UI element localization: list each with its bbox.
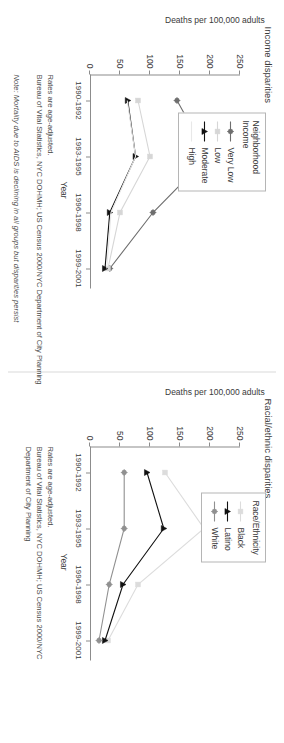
y-tick-label: 100: [145, 54, 155, 68]
legend-label: Moderate: [200, 147, 210, 183]
y-tick-label: 0: [85, 63, 95, 68]
data-point: [121, 469, 128, 476]
y-tick: [119, 442, 120, 446]
panel-title-left: Income disparities: [263, 26, 274, 103]
series-black: [106, 470, 207, 643]
legend-key-circle-icon: [208, 500, 221, 522]
legend-key-none-icon: [185, 120, 198, 142]
footnote-line: Bureau of Vital Statistics, NYC DOHMH; U…: [34, 446, 45, 659]
legend-label: Black: [236, 527, 246, 548]
data-point: [121, 525, 128, 532]
footnotes-right: Rates are age-adjusted.Bureau of Vital S…: [23, 446, 56, 659]
footnote-line: Rates are age-adjusted.: [45, 74, 56, 384]
x-tick-label: 1999-2001: [74, 249, 83, 287]
legend-key-triangle-icon: [198, 120, 211, 142]
data-point: [148, 154, 153, 159]
y-tick: [179, 70, 180, 74]
data-point: [174, 97, 181, 104]
legend-label: White: [210, 527, 220, 549]
figure-note: Note: Mortality due to AIDS is declining…: [11, 74, 22, 322]
footnote-line: Department of City Planning: [23, 446, 34, 659]
figure-canvas: Income disparities Deaths per 100,000 ad…: [0, 0, 284, 743]
y-tick: [89, 70, 90, 74]
y-tick-label: 250: [235, 426, 245, 440]
y-tick-label: 50: [115, 59, 125, 68]
legend-item: Moderate: [198, 120, 211, 183]
y-tick-label: 200: [205, 54, 215, 68]
footnotes-left: Rates are age-adjusted.Bureau of Vital S…: [34, 74, 56, 384]
y-tick-label: 0: [85, 435, 95, 440]
y-tick: [89, 442, 90, 446]
legend-item: White: [208, 500, 221, 554]
legend-label: Latino: [223, 527, 233, 550]
x-tick-label: 1999-2001: [74, 621, 83, 659]
x-tick-label: 1993-1995: [74, 509, 83, 547]
y-tick: [209, 70, 210, 74]
y-axis-label-right: Deaths per 100,000 adults: [165, 386, 265, 396]
data-point: [106, 581, 113, 588]
legend-item: Black: [234, 500, 247, 554]
series-latino: [102, 469, 166, 643]
x-tick-label: 1990-1992: [74, 453, 83, 491]
y-tick: [149, 70, 150, 74]
data-point: [96, 637, 103, 644]
y-tick: [179, 442, 180, 446]
data-point: [161, 525, 167, 531]
data-point: [136, 582, 141, 587]
y-tick-label: 100: [145, 426, 155, 440]
data-point: [144, 469, 150, 475]
x-tick-label: 1993-1995: [74, 137, 83, 175]
data-point: [163, 470, 168, 475]
legend-left: Neighborhood Income Very LowLowModerateH…: [178, 112, 266, 191]
legend-right: Race/Ethnicity BlackLatinoWhite: [201, 492, 266, 562]
y-axis-label-left: Deaths per 100,000 adults: [165, 14, 265, 24]
y-tick-label: 150: [175, 426, 185, 440]
y-tick: [209, 442, 210, 446]
data-point: [125, 97, 131, 103]
series-high: [107, 100, 136, 268]
panel-income-disparities: Income disparities Deaths per 100,000 ad…: [0, 0, 284, 372]
panel-racial-ethnic-disparities: Racial/ethnic disparities Deaths per 100…: [0, 372, 284, 743]
legend-title-right: Race/Ethnicity: [250, 500, 260, 554]
footnote-line: Rates are age-adjusted.: [45, 446, 56, 659]
x-tick-label: 1996-1998: [74, 193, 83, 231]
y-tick: [239, 70, 240, 74]
legend-label: Very Low: [226, 147, 236, 182]
y-tick: [149, 442, 150, 446]
y-tick-label: 250: [235, 54, 245, 68]
y-tick: [239, 442, 240, 446]
legend-item: Low: [211, 120, 224, 183]
legend-label: Low: [213, 147, 223, 163]
legend-key-circle-icon: [224, 120, 237, 142]
legend-item: High: [185, 120, 198, 183]
y-tick-label: 150: [175, 54, 185, 68]
legend-title-left: Neighborhood Income: [240, 120, 260, 183]
series-white: [96, 469, 128, 644]
y-tick-label: 200: [205, 426, 215, 440]
legend-item: Latino: [221, 500, 234, 554]
x-axis-label-left: Year: [59, 181, 69, 198]
data-point: [118, 210, 123, 215]
legend-key-square-icon: [234, 500, 247, 522]
y-tick-label: 50: [115, 431, 125, 440]
x-tick-label: 1990-1992: [74, 81, 83, 119]
x-axis-label-right: Year: [59, 553, 69, 570]
legend-label: High: [187, 147, 197, 164]
data-point: [136, 98, 141, 103]
footnote-line: Bureau of Vital Statistics, NYC DOHMH; U…: [34, 74, 45, 384]
x-tick-label: 1996-1998: [74, 565, 83, 603]
legend-key-triangle-icon: [221, 500, 234, 522]
y-tick: [119, 70, 120, 74]
series-moderate: [102, 97, 138, 271]
legend-key-square-icon: [211, 120, 224, 142]
panel-title-right: Racial/ethnic disparities: [263, 398, 274, 498]
legend-item: Very Low: [224, 120, 237, 183]
rotated-figure-wrapper: Income disparities Deaths per 100,000 ad…: [0, 0, 284, 743]
